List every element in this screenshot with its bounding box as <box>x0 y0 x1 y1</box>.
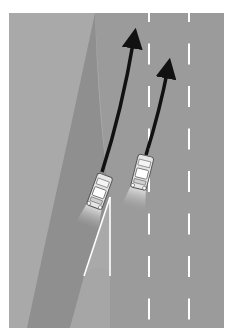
main-road <box>95 13 224 328</box>
merge-diagram <box>0 0 234 335</box>
